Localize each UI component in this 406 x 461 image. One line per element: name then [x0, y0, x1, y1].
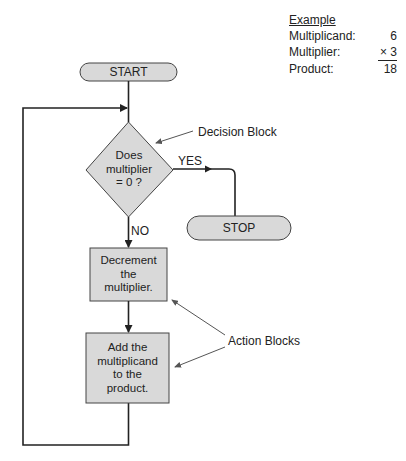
action1-text: Decrement the multiplier. [90, 254, 167, 295]
action-annotation-arrow-1 [172, 300, 225, 335]
example-panel: Example Multiplicand: 6 Multiplier: × 3 … [289, 12, 397, 77]
example-label: Multiplier: [289, 44, 340, 61]
stop-label: STOP [187, 221, 291, 235]
example-value: 18 [384, 61, 397, 77]
action2-line-1: Add the [86, 341, 169, 355]
start-label: START [80, 65, 177, 79]
decision-block-annotation: Decision Block [198, 125, 277, 139]
action1-line-2: the [90, 268, 167, 282]
connector-yes [173, 169, 235, 216]
yes-label: YES [178, 154, 202, 168]
decision-text: Does multiplier = 0 ? [88, 149, 170, 190]
example-value: × 3 [378, 44, 397, 61]
decision-line-3: = 0 ? [88, 176, 170, 190]
no-label: NO [131, 224, 149, 238]
yes-arrow-icon [205, 166, 212, 173]
decision-line-1: Does [88, 149, 170, 163]
action-blocks-annotation: Action Blocks [228, 334, 300, 348]
decision-line-2: multiplier [88, 163, 170, 177]
example-label: Product: [289, 61, 334, 77]
example-row-multiplier: Multiplier: × 3 [289, 44, 397, 61]
action2-line-4: product. [86, 382, 169, 396]
decision-annotation-arrow [156, 131, 193, 143]
example-row-product: Product: 18 [289, 61, 397, 77]
action2-line-2: multiplicand [86, 355, 169, 369]
example-title: Example [289, 12, 397, 28]
example-value: 6 [390, 28, 397, 44]
action2-line-3: to the [86, 368, 169, 382]
example-row-multiplicand: Multiplicand: 6 [289, 28, 397, 44]
action1-line-1: Decrement [90, 254, 167, 268]
action1-line-3: multiplier. [90, 281, 167, 295]
action2-text: Add the multiplicand to the product. [86, 341, 169, 395]
action-annotation-arrow-2 [175, 347, 225, 367]
example-label: Multiplicand: [289, 28, 356, 44]
